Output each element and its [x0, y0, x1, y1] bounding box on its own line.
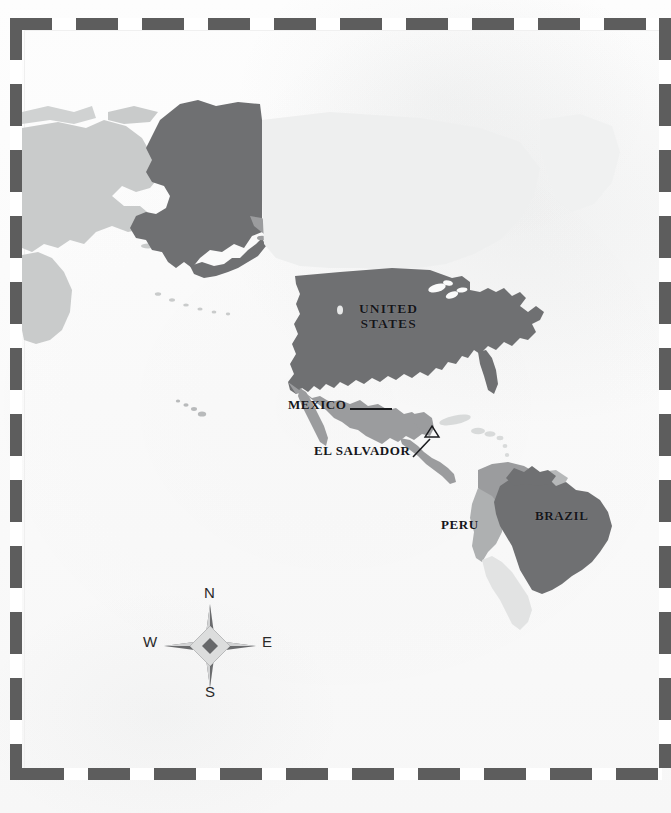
map-label-united-states: UNITED STATES [359, 301, 418, 331]
landmass-kamchatka [22, 252, 72, 344]
landmass-canada [262, 112, 540, 270]
landmass-wrangel [108, 106, 158, 124]
map-page: UNITED STATES MEXICO EL SALVADOR PERU BR… [0, 0, 671, 813]
frame-border-left [10, 18, 22, 780]
map-label-el-salvador: EL SALVADOR [314, 444, 411, 459]
compass-label-west: W [143, 633, 157, 650]
landmass-greenland [540, 114, 620, 212]
landmass-hawaii [176, 400, 206, 417]
caribbean-islands [438, 412, 510, 465]
landmass-siberia-north [22, 106, 96, 124]
compass-rose: N S W E [152, 586, 268, 706]
compass-label-east: E [262, 633, 272, 650]
frame-border-top [10, 18, 661, 30]
compass-label-south: S [205, 683, 215, 700]
map-label-united-states-line1: UNITED [359, 301, 418, 316]
map-label-mexico: MEXICO [288, 398, 347, 413]
map-label-brazil: BRAZIL [535, 509, 588, 524]
map-label-peru: PERU [441, 518, 479, 533]
frame-border-right [659, 18, 671, 768]
landmass-florida [478, 350, 498, 394]
map-label-united-states-line2: STATES [359, 316, 418, 331]
frame-border-bottom [22, 768, 662, 780]
inland-lake [337, 306, 343, 315]
compass-label-north: N [204, 584, 215, 601]
landmass-brazil-north [506, 466, 556, 486]
